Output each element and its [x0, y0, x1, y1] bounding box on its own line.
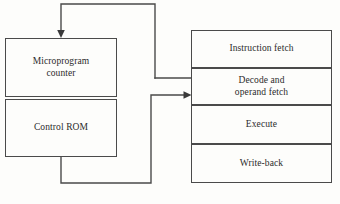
- control-rom-label: Control ROM: [34, 122, 88, 134]
- control-rom-box: Control ROM: [5, 99, 117, 157]
- pipeline-stage-execute: Execute: [191, 105, 332, 144]
- microprogram-counter-box: Microprogram counter: [5, 38, 117, 97]
- pipeline-stage-write-back: Write-back: [191, 144, 332, 183]
- pipeline-stage-label: Instruction fetch: [229, 43, 293, 55]
- pipeline-stage-instruction-fetch: Instruction fetch: [191, 30, 332, 68]
- pipeline-stage-decode-operand-fetch: Decode and operand fetch: [191, 68, 332, 105]
- microprogram-counter-label: Microprogram counter: [33, 56, 90, 80]
- pipeline-stage-label: Decode and operand fetch: [235, 75, 288, 99]
- pipeline-stage-label: Write-back: [240, 158, 283, 170]
- pipeline-stage-label: Execute: [246, 119, 277, 131]
- figure-caption: [0, 193, 230, 204]
- diagram-canvas: Microprogram counter Control ROM Instruc…: [0, 0, 340, 204]
- feedback-arrowhead-icon: [57, 30, 65, 38]
